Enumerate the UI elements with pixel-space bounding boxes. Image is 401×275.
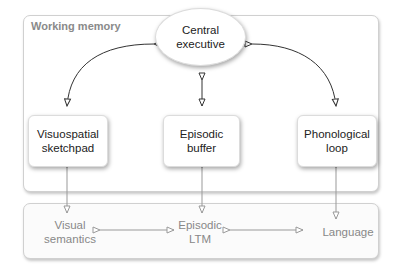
phonological-line-2: loop: [304, 141, 370, 155]
episodic-buffer-line-2: buffer: [180, 141, 223, 155]
arrow-ce-visuospatial: [67, 44, 154, 106]
phonological-loop-node: Phonological loop: [297, 115, 377, 167]
arrow-ce-phonological: [252, 44, 336, 106]
visual-semantics-line-1: Visual: [42, 218, 98, 232]
central-executive-line-2: executive: [176, 37, 225, 51]
visuospatial-sketchpad-node: Visuospatial sketchpad: [28, 115, 108, 167]
visuospatial-line-2: sketchpad: [37, 141, 99, 155]
episodic-ltm-line-1: Episodic: [171, 218, 229, 232]
episodic-buffer-line-1: Episodic: [180, 127, 223, 141]
phonological-line-1: Phonological: [304, 127, 370, 141]
episodic-buffer-node: Episodic buffer: [163, 115, 240, 167]
central-executive-line-1: Central: [176, 23, 225, 37]
episodic-ltm-label: Episodic LTM: [171, 218, 229, 246]
visuospatial-line-1: Visuospatial: [37, 127, 99, 141]
central-executive-node: Central executive: [155, 8, 246, 66]
episodic-ltm-line-2: LTM: [171, 232, 229, 246]
visual-semantics-label: Visual semantics: [42, 218, 98, 246]
language-line-1: Language: [318, 225, 378, 239]
visual-semantics-line-2: semantics: [42, 232, 98, 246]
language-label: Language: [318, 225, 378, 239]
